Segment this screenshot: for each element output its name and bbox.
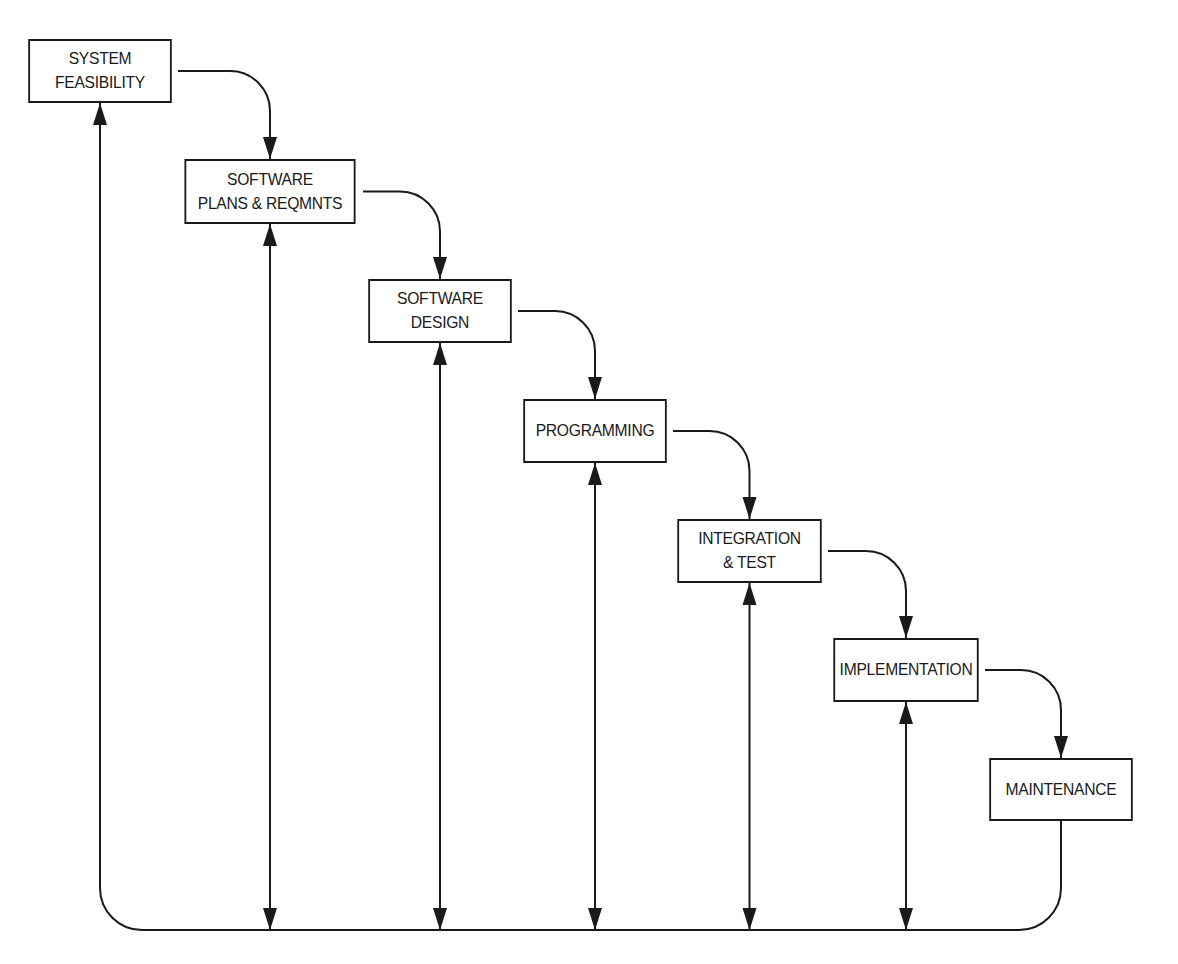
stage-label-line: SOFTWARE [397, 287, 483, 311]
stage-maintenance: MAINTENANCE [989, 758, 1133, 821]
stage-software-plans-reqmnts: SOFTWARE PLANS & REQMNTS [184, 159, 355, 224]
stage-label-line: INTEGRATION [698, 527, 801, 551]
stage-system-feasibility: SYSTEM FEASIBILITY [28, 39, 172, 103]
arrowhead-up-icon [263, 224, 277, 246]
forward-arrow [518, 311, 595, 399]
arrowhead-up-icon [588, 463, 602, 485]
arrowhead-down-icon [433, 908, 447, 930]
stage-label-line: IMPLEMENTATION [840, 658, 973, 682]
stage-label-line: PROGRAMMING [536, 419, 655, 443]
stage-label-line: & TEST [723, 551, 776, 575]
stage-software-design: SOFTWARE DESIGN [368, 279, 512, 343]
arrowhead-up-icon [899, 702, 913, 724]
feedback-bus [100, 103, 1061, 930]
forward-arrow [828, 551, 906, 638]
stage-label-line: DESIGN [411, 311, 469, 335]
arrowhead-down-icon [263, 908, 277, 930]
arrowhead-down-icon [899, 616, 913, 638]
arrowhead-down-icon [433, 257, 447, 279]
arrowhead-down-icon [588, 908, 602, 930]
arrowhead-down-icon [899, 908, 913, 930]
forward-arrow [673, 431, 750, 519]
stage-label-line: SYSTEM [69, 47, 132, 71]
arrowhead-up-icon [433, 343, 447, 365]
arrowhead-up-icon [93, 103, 107, 125]
waterfall-diagram: SYSTEM FEASIBILITY SOFTWARE PLANS & REQM… [0, 0, 1178, 964]
stage-label-line: FEASIBILITY [55, 71, 145, 95]
stage-programming: PROGRAMMING [523, 399, 667, 463]
arrowhead-down-icon [743, 908, 757, 930]
forward-arrow [363, 192, 440, 280]
arrowhead-down-icon [263, 137, 277, 159]
stage-integration-test: INTEGRATION & TEST [677, 519, 821, 583]
stage-label-line: PLANS & REQMNTS [198, 192, 342, 216]
forward-arrow [178, 71, 270, 159]
stage-label-line: SOFTWARE [227, 168, 313, 192]
forward-arrow [985, 670, 1061, 758]
stage-implementation: IMPLEMENTATION [833, 638, 978, 702]
arrowhead-up-icon [743, 583, 757, 605]
arrowhead-down-icon [1054, 736, 1068, 758]
arrowhead-down-icon [588, 377, 602, 399]
stage-label-line: MAINTENANCE [1006, 778, 1117, 802]
arrowhead-down-icon [743, 497, 757, 519]
